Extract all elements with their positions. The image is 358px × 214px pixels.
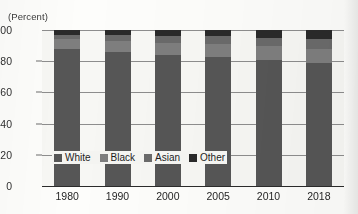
bar-segment-other [306, 30, 332, 39]
y-axis-tick-label: 0 [0, 180, 12, 192]
legend-swatch-icon [100, 154, 108, 162]
bar-2010 [256, 30, 282, 186]
y-axis-tick-label: 40 [0, 118, 12, 130]
x-axis-tick-label: 2018 [292, 190, 346, 202]
bar-segment-white [105, 52, 131, 186]
legend-label: Other [200, 152, 225, 163]
bar-segment-black [105, 41, 131, 52]
gridline [42, 124, 344, 125]
x-axis-tick-label: 2005 [191, 190, 245, 202]
x-axis-tick-label: 1990 [91, 190, 145, 202]
bar-segment-white [155, 55, 181, 186]
legend-item-other: Other [189, 152, 225, 163]
legend-swatch-icon [54, 154, 62, 162]
bar-segment-white [205, 57, 231, 186]
bar-segment-white [306, 63, 332, 186]
bar-2018 [306, 30, 332, 186]
y-axis-tick-mark [36, 61, 42, 62]
bar-segment-asian [256, 38, 282, 46]
bar-segment-white [256, 60, 282, 186]
bar-segment-other [256, 30, 282, 38]
bar-segment-black [54, 39, 80, 48]
gridline [42, 61, 344, 62]
bar-segment-white [54, 49, 80, 186]
y-axis-tick-mark [36, 154, 42, 155]
y-axis-tick-label: 20 [0, 149, 12, 161]
legend-label: Asian [155, 152, 180, 163]
x-axis-tick-label: 2000 [141, 190, 195, 202]
x-axis-tick-label: 1980 [40, 190, 94, 202]
gridline [42, 30, 344, 31]
legend-item-black: Black [100, 152, 135, 163]
y-axis-tick-label: 80 [0, 55, 12, 67]
y-axis-tick-mark [36, 92, 42, 93]
y-axis-tick-label: 60 [0, 86, 12, 98]
y-axis-unit-caption: (Percent) [8, 11, 48, 22]
legend-label: Black [111, 152, 135, 163]
stacked-bar-chart: (Percent) 020406080100 19801990200020052… [0, 0, 358, 214]
y-axis-tick-label: 100 [0, 24, 12, 36]
axis-baseline [42, 186, 344, 187]
x-axis-tick-label: 2010 [242, 190, 296, 202]
bar-segment-black [205, 44, 231, 56]
chart-legend: WhiteBlackAsianOther [52, 151, 227, 164]
legend-item-white: White [54, 152, 91, 163]
bar-segment-black [155, 43, 181, 55]
gridline [42, 92, 344, 93]
y-axis-tick-mark [36, 123, 42, 124]
bar-segment-black [256, 46, 282, 60]
legend-label: White [65, 152, 91, 163]
bar-segment-asian [306, 39, 332, 48]
legend-item-asian: Asian [144, 152, 180, 163]
bar-segment-black [306, 49, 332, 63]
bar-segment-asian [205, 36, 231, 44]
page-edge-shadow [344, 0, 358, 214]
legend-swatch-icon [189, 154, 197, 162]
legend-swatch-icon [144, 154, 152, 162]
